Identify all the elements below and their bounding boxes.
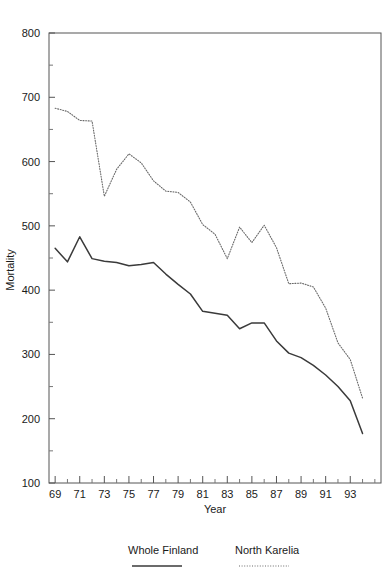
- x-tick-label: 73: [98, 488, 110, 500]
- mortality-line-chart: 100200300400500600700800 697173757779818…: [0, 0, 391, 575]
- y-tick-label: 200: [22, 413, 40, 425]
- y-tick-label: 600: [22, 156, 40, 168]
- x-tick-label: 89: [295, 488, 307, 500]
- x-tick-label: 81: [197, 488, 209, 500]
- y-tick-label: 100: [22, 477, 40, 489]
- x-tick-label: 87: [270, 488, 282, 500]
- x-tick-label: 69: [49, 488, 61, 500]
- x-tick-label: 79: [172, 488, 184, 500]
- x-tick-label: 77: [147, 488, 159, 500]
- x-tick-label: 91: [320, 488, 332, 500]
- y-tick-label: 300: [22, 348, 40, 360]
- y-axis-title: Mortality: [4, 249, 16, 291]
- legend-label-0: Whole Finland: [128, 544, 198, 556]
- x-tick-label: 71: [74, 488, 86, 500]
- y-tick-label: 800: [22, 27, 40, 39]
- x-tick-label: 85: [246, 488, 258, 500]
- chart-figure: 100200300400500600700800 697173757779818…: [0, 0, 391, 575]
- y-tick-label: 500: [22, 220, 40, 232]
- y-tick-label: 400: [22, 284, 40, 296]
- legend-label-1: North Karelia: [235, 544, 300, 556]
- x-tick-label: 75: [123, 488, 135, 500]
- x-axis-title: Year: [204, 503, 227, 515]
- x-tick-label: 93: [344, 488, 356, 500]
- y-tick-label: 700: [22, 91, 40, 103]
- x-tick-label: 83: [221, 488, 233, 500]
